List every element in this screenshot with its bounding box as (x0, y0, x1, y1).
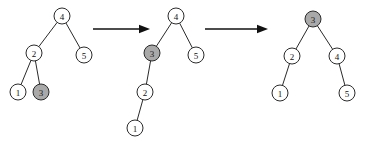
tree-edge (21, 60, 31, 84)
tree-node-1: 1 (272, 85, 288, 101)
tree-node-2: 2 (26, 45, 42, 61)
node-circle-highlighted (144, 45, 160, 61)
node-circle (26, 45, 42, 61)
tree-node-5: 5 (76, 47, 92, 63)
node-circle (329, 48, 345, 64)
tree-edge (146, 61, 150, 84)
nodes-layer: 425134352132415 (10, 8, 355, 136)
node-circle (54, 8, 70, 24)
tree-node-4: 4 (168, 8, 184, 24)
edges-layer (21, 22, 345, 120)
tree-edge (137, 100, 143, 121)
tree-node-1: 1 (127, 120, 143, 136)
arrow-head (257, 25, 268, 33)
node-circle (76, 47, 92, 63)
node-circle (127, 120, 143, 136)
node-circle (272, 85, 288, 101)
binary-tree-diagram: 425134352132415 (0, 0, 374, 150)
tree-node-3: 3 (305, 11, 321, 27)
tree-edge (296, 26, 309, 49)
tree-node-4: 4 (54, 8, 70, 24)
tree-edge (66, 23, 80, 48)
arrow-head (139, 25, 150, 33)
node-circle (284, 48, 300, 64)
tree-node-5: 5 (339, 85, 355, 101)
tree-edge (339, 64, 345, 86)
tree-rotation-figure: 425134352132415 (0, 0, 374, 150)
tree-node-4: 4 (329, 48, 345, 64)
tree-edge (180, 23, 193, 48)
transform-arrow (205, 25, 268, 33)
tree-node-3: 3 (144, 45, 160, 61)
node-circle-highlighted (305, 11, 321, 27)
node-circle (137, 84, 153, 100)
node-circle (339, 85, 355, 101)
tree-edge (156, 23, 171, 47)
tree-node-2: 2 (284, 48, 300, 64)
tree-node-5: 5 (188, 47, 204, 63)
node-circle-highlighted (33, 84, 49, 100)
tree-edge (35, 61, 39, 84)
transform-arrow (93, 25, 150, 33)
tree-edge (282, 64, 289, 86)
tree-edge (317, 26, 332, 50)
tree-node-1: 1 (10, 84, 26, 100)
node-circle (168, 8, 184, 24)
tree-edge (39, 22, 57, 46)
tree-node-2: 2 (137, 84, 153, 100)
node-circle (188, 47, 204, 63)
tree-node-3: 3 (33, 84, 49, 100)
node-circle (10, 84, 26, 100)
arrows-layer (93, 25, 268, 33)
